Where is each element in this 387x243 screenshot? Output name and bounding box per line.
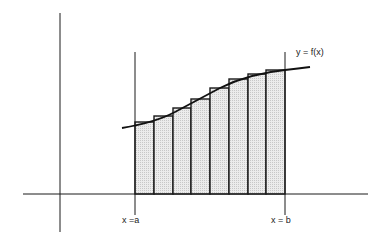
rectangle-2 (154, 116, 173, 194)
rectangle-1 (135, 122, 154, 194)
riemann-sum-diagram: y = f(x) x =a x = b (0, 0, 387, 243)
curve-label: y = f(x) (296, 47, 324, 57)
rectangles (135, 70, 285, 194)
rectangle-7 (248, 74, 266, 194)
rectangle-4 (191, 99, 210, 194)
left-bound-label: x =a (122, 215, 139, 225)
right-bound-label: x = b (271, 215, 291, 225)
diagram-canvas (0, 0, 387, 243)
rectangle-3 (173, 108, 191, 194)
rectangle-6 (229, 79, 248, 194)
rectangle-5 (210, 88, 229, 194)
rectangle-8 (266, 70, 285, 194)
